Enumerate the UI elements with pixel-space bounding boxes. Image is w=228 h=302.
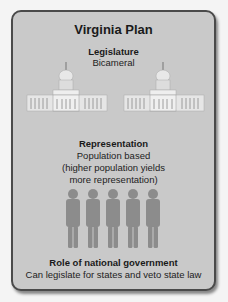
representation-body-1: Population based xyxy=(13,150,214,162)
representation-body-2: (higher population yields xyxy=(13,162,214,174)
capitol-building-icon xyxy=(25,62,109,114)
role-body: Can legislate for states and veto state … xyxy=(13,269,214,281)
population-figures xyxy=(64,188,164,250)
person-figure-icon xyxy=(126,189,140,248)
person-figure-icon xyxy=(106,189,120,248)
card-title: Virginia Plan xyxy=(13,22,214,37)
role-heading: Role of national government xyxy=(13,257,214,268)
person-figure-icon xyxy=(66,189,80,248)
virginia-plan-card: Virginia Plan Legislature Bicameral Repr… xyxy=(11,10,216,291)
capitol-building-icon xyxy=(122,62,206,114)
person-figure-icon xyxy=(146,189,160,248)
representation-heading: Representation xyxy=(13,138,214,149)
legislature-heading: Legislature xyxy=(13,46,214,57)
person-figure-icon xyxy=(86,189,100,248)
representation-body-3: more representation) xyxy=(13,174,214,186)
